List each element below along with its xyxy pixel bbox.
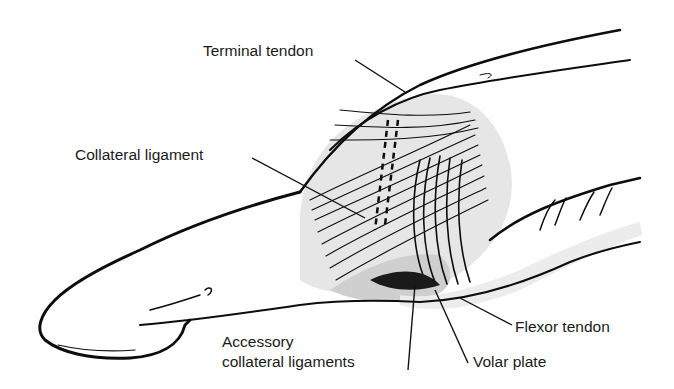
finger-pad-line: [58, 345, 135, 351]
label-accessory-line1: Accessory: [222, 333, 294, 351]
tendon-mark: [480, 74, 491, 78]
finger-lower-edge: [140, 301, 420, 325]
label-accessory-line2: collateral ligaments: [222, 353, 355, 371]
label-collateral-ligament: Collateral ligament: [75, 146, 203, 164]
label-flexor-tendon: Flexor tendon: [515, 318, 610, 336]
finger-skin-crease: [150, 288, 211, 310]
leader-terminal-tendon: [355, 60, 405, 92]
label-volar-plate: Volar plate: [473, 353, 546, 371]
leader-flexor-tendon: [460, 298, 512, 325]
label-terminal-tendon: Terminal tendon: [203, 42, 313, 60]
anatomy-diagram: Terminal tendon Collateral ligament Acce…: [0, 0, 674, 389]
skin-creases: [540, 188, 612, 230]
